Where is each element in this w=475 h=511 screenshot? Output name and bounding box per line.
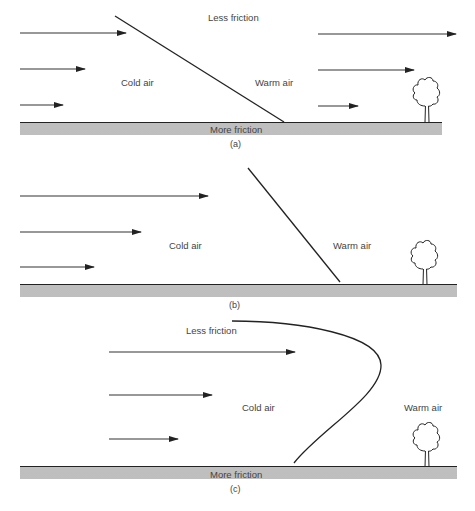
panel-b	[20, 168, 438, 285]
front-line-b	[248, 168, 340, 282]
label-more-friction-c: More friction	[210, 469, 262, 480]
label-less-friction-c: Less friction	[186, 325, 237, 336]
label-cold-air-c: Cold air	[242, 402, 275, 413]
label-warm-air-c: Warm air	[404, 402, 442, 413]
label-more-friction-a: More friction	[210, 124, 262, 135]
label-cold-air-b: Cold air	[169, 240, 202, 251]
front-line-a	[115, 16, 284, 122]
caption-a: (a)	[230, 139, 241, 149]
label-warm-air-a: Warm air	[255, 77, 293, 88]
panel-a	[20, 16, 456, 122]
tree-icon	[413, 77, 440, 122]
front-line-c	[232, 321, 381, 463]
caption-c: (c)	[230, 484, 241, 494]
label-warm-air-b: Warm air	[333, 240, 371, 251]
tree-icon	[411, 240, 438, 285]
panel-c	[109, 321, 440, 467]
diagram-canvas	[0, 0, 475, 511]
tree-icon	[413, 422, 440, 467]
label-less-friction-a: Less friction	[208, 12, 259, 23]
caption-b: (b)	[229, 300, 240, 310]
label-cold-air-a: Cold air	[121, 77, 154, 88]
